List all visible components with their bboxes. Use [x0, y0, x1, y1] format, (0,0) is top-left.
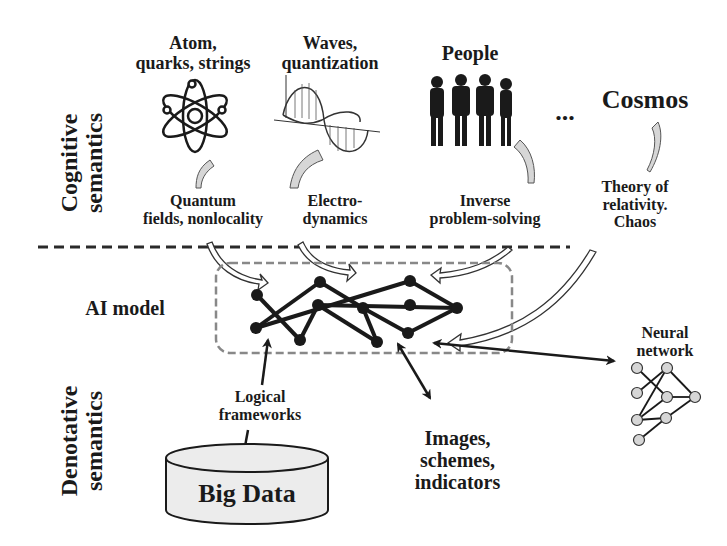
big-data-label: Big Data [190, 480, 304, 509]
diagram-graphics [0, 0, 727, 546]
black-arrows [244, 340, 614, 452]
ai-model-graph [256, 281, 457, 342]
gray-curved-arrows [196, 122, 661, 188]
hollow-arrows-into-model [207, 242, 596, 351]
neural-network-icon [632, 363, 701, 446]
wave-icon [274, 75, 380, 152]
people-icon [430, 74, 512, 146]
logical-to-model-arrow [262, 340, 268, 385]
atom-icon [158, 80, 232, 152]
